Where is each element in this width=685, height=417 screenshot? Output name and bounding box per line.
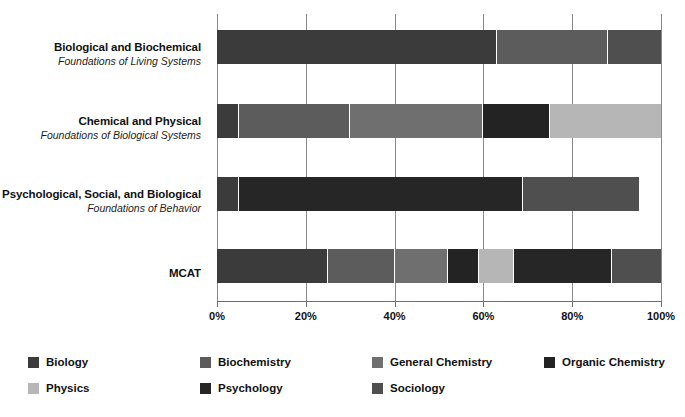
legend-swatch-icon xyxy=(372,383,383,394)
category-title: Biological and Biochemical xyxy=(0,40,201,54)
bar-segment xyxy=(497,30,608,64)
category-title: Chemical and Physical xyxy=(0,114,201,128)
x-axis-tick-label: 80% xyxy=(561,310,583,322)
legend-label: General Chemistry xyxy=(390,356,492,368)
x-axis-tick-label: 100% xyxy=(647,310,675,322)
legend-swatch-icon xyxy=(200,357,211,368)
category-subtitle: Foundations of Living Systems xyxy=(0,55,201,68)
stacked-bar xyxy=(217,30,661,64)
bar-segment xyxy=(448,249,479,283)
legend-item-organic-chemistry[interactable]: Organic Chemistry xyxy=(544,356,665,368)
legend-label: Physics xyxy=(46,382,89,394)
bar-segment xyxy=(239,104,350,138)
legend-swatch-icon xyxy=(372,357,383,368)
bar-row xyxy=(217,177,661,211)
legend-item-biochemistry[interactable]: Biochemistry xyxy=(200,356,291,368)
legend-swatch-icon xyxy=(200,383,211,394)
legend-label: Biology xyxy=(46,356,88,368)
legend-label: Biochemistry xyxy=(218,356,291,368)
x-axis-tick-label: 40% xyxy=(384,310,406,322)
bar-segment xyxy=(217,249,328,283)
category-label-mcat: MCAT xyxy=(0,266,201,280)
x-axis: 0%20%40%60%80%100% xyxy=(217,301,661,329)
bar-segment xyxy=(550,104,661,138)
legend-swatch-icon xyxy=(28,357,39,368)
bar-segment xyxy=(217,104,239,138)
legend-swatch-icon xyxy=(544,357,555,368)
bar-segment xyxy=(612,249,661,283)
bar-segment xyxy=(523,177,638,211)
category-label-biological: Biological and Biochemical Foundations o… xyxy=(0,40,201,69)
bar-segment xyxy=(395,249,448,283)
stacked-bar xyxy=(217,177,661,211)
legend-label: Organic Chemistry xyxy=(562,356,665,368)
bar-segment xyxy=(483,104,550,138)
bar-row xyxy=(217,30,661,64)
legend-label: Sociology xyxy=(390,382,445,394)
plot-wrapper: Biological and Biochemical Foundations o… xyxy=(0,0,685,330)
x-axis-tick-label: 20% xyxy=(295,310,317,322)
bar-segment xyxy=(608,30,661,64)
x-axis-tick xyxy=(306,301,307,307)
legend-item-psychology[interactable]: Psychology xyxy=(200,382,283,394)
gridline xyxy=(661,14,662,301)
legend-label: Psychology xyxy=(218,382,283,394)
legend-item-biology[interactable]: Biology xyxy=(28,356,88,368)
category-label-psychological: Psychological, Social, and Biological Fo… xyxy=(0,187,201,216)
x-axis-line xyxy=(217,301,661,302)
bar-segment xyxy=(479,249,515,283)
stacked-bar xyxy=(217,104,661,138)
x-axis-tick xyxy=(217,301,218,307)
x-axis-tick xyxy=(661,301,662,307)
stacked-bar xyxy=(217,249,661,283)
legend-item-sociology[interactable]: Sociology xyxy=(372,382,445,394)
legend: Biology Biochemistry General Chemistry O… xyxy=(28,352,668,404)
category-axis-labels: Biological and Biochemical Foundations o… xyxy=(0,14,207,301)
category-title: MCAT xyxy=(0,266,201,280)
bar-row xyxy=(217,249,661,283)
bar-segment xyxy=(217,30,497,64)
x-axis-tick xyxy=(572,301,573,307)
legend-item-general-chemistry[interactable]: General Chemistry xyxy=(372,356,492,368)
x-axis-tick-label: 0% xyxy=(209,310,225,322)
x-axis-tick xyxy=(395,301,396,307)
category-label-chemical: Chemical and Physical Foundations of Bio… xyxy=(0,114,201,143)
category-subtitle: Foundations of Biological Systems xyxy=(0,129,201,142)
bar-segment xyxy=(239,177,523,211)
bar-segment xyxy=(328,249,395,283)
plot-area xyxy=(217,14,661,301)
bar-segment xyxy=(350,104,483,138)
bar-row xyxy=(217,104,661,138)
category-title: Psychological, Social, and Biological xyxy=(0,187,201,201)
bar-rows xyxy=(217,14,661,301)
x-axis-tick xyxy=(483,301,484,307)
bar-segment xyxy=(514,249,612,283)
category-subtitle: Foundations of Behavior xyxy=(0,202,201,215)
x-axis-tick-label: 60% xyxy=(472,310,494,322)
legend-item-physics[interactable]: Physics xyxy=(28,382,89,394)
legend-swatch-icon xyxy=(28,383,39,394)
stacked-bar-chart: Biological and Biochemical Foundations o… xyxy=(0,0,685,417)
bar-segment xyxy=(217,177,239,211)
